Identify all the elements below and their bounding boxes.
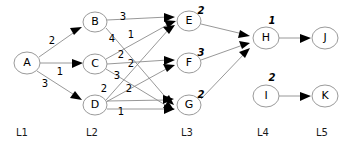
node-k[interactable]: K — [312, 85, 338, 107]
node-j-label: J — [322, 31, 326, 44]
edge-g-h — [201, 48, 250, 99]
edge-b-g — [106, 28, 174, 105]
edge-i-k — [279, 92, 311, 101]
edge-weight-b-e: 3 — [120, 11, 126, 22]
node-a-label: A — [23, 56, 31, 69]
node-d[interactable]: D — [83, 95, 107, 115]
node-d-label: D — [91, 98, 99, 111]
node-g-label: G — [185, 98, 194, 111]
layer-label-l2: L2 — [86, 127, 98, 138]
edge-weight-d-g-lower: 1 — [118, 106, 124, 117]
layer-label-l1: L1 — [16, 127, 28, 138]
edge-weight-c-f: 2 — [118, 49, 124, 60]
graph-svg: 2 1 3 3 4 1 2 2 3 2 2 1 A B C — [0, 0, 356, 148]
node-f-value: 3 — [198, 47, 205, 58]
node-h-value: 1 — [269, 15, 276, 26]
node-e-value: 2 — [198, 5, 205, 16]
node-i[interactable]: I 2 — [253, 72, 279, 107]
node-g[interactable]: G 2 — [177, 89, 205, 115]
node-i-label: I — [264, 89, 267, 102]
edge-weight-c-g: 2 — [128, 58, 134, 69]
edge-f-h — [201, 41, 250, 60]
edge-weight-a-d: 3 — [42, 78, 48, 89]
node-k-label: K — [321, 89, 329, 102]
node-b-label: B — [91, 15, 99, 28]
edge-h-j — [279, 34, 311, 43]
graph-diagram-canvas: 2 1 3 3 4 1 2 2 3 2 2 1 A B C — [0, 0, 356, 148]
edge-weight-d-g: 2 — [126, 83, 132, 94]
node-b[interactable]: B — [83, 12, 107, 32]
layer-label-l4: L4 — [257, 127, 269, 138]
edge-weight-d-e: 3 — [114, 70, 120, 81]
node-h[interactable]: H 1 — [253, 15, 279, 49]
node-e-label: E — [186, 14, 193, 27]
node-f[interactable]: F 3 — [177, 47, 205, 73]
node-g-value: 2 — [198, 89, 205, 100]
layer-label-l5: L5 — [316, 127, 328, 138]
node-j[interactable]: J — [312, 27, 338, 49]
node-c-label: C — [91, 57, 99, 70]
node-e[interactable]: E 2 — [177, 5, 205, 31]
edge-weight-a-b: 2 — [49, 35, 55, 46]
edge-weight-d-f: 2 — [101, 83, 107, 94]
node-layer: A B C D E 2 F 3 — [14, 5, 338, 115]
node-a[interactable]: A — [14, 52, 40, 74]
node-c[interactable]: C — [83, 54, 107, 74]
layer-label-l3: L3 — [181, 127, 193, 138]
edge-a-b — [39, 27, 82, 57]
node-f-label: F — [186, 56, 192, 69]
node-h-label: H — [262, 31, 270, 44]
edge-e-h — [201, 24, 250, 38]
edge-weight-c-e: 1 — [128, 29, 134, 40]
edge-weight-b-g: 4 — [109, 33, 115, 44]
layer-label-row: L1 L2 L3 L4 L5 — [16, 127, 328, 138]
edge-c-e — [106, 20, 176, 59]
edge-weight-a-c: 1 — [57, 66, 63, 77]
node-i-value: 2 — [269, 72, 276, 83]
